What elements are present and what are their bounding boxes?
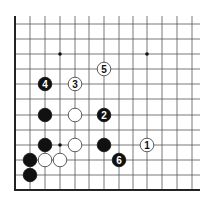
move-number-label: 6 [116,155,122,166]
stone-circle [68,108,82,122]
move-number-label: 3 [72,79,78,90]
white-stone [68,138,82,152]
stone-circle [38,108,52,122]
stones-layer: 543216 [23,62,154,182]
go-board-diagram: 543216 [0,0,214,202]
white-stone [68,108,82,122]
black-stone-move-6: 6 [112,153,126,167]
white-stone [38,153,52,167]
star-point-icon [145,52,149,56]
black-stone [38,138,52,152]
stone-circle [23,153,37,167]
stone-circle [23,168,37,182]
stone-circle [38,138,52,152]
move-number-label: 5 [101,64,107,75]
stone-circle [53,153,67,167]
white-stone-move-1: 1 [140,138,154,152]
black-stone [97,138,111,152]
black-stone [23,168,37,182]
black-stone [38,108,52,122]
black-stone-move-4: 4 [38,77,52,91]
black-stone-move-2: 2 [97,108,111,122]
move-number-label: 4 [42,79,48,90]
stone-circle [38,153,52,167]
white-stone [53,153,67,167]
stone-circle [97,138,111,152]
black-stone [23,153,37,167]
star-point-icon [58,143,62,147]
white-stone-move-5: 5 [97,62,111,76]
star-point-icon [58,52,62,56]
move-number-label: 2 [101,110,107,121]
white-stone-move-3: 3 [68,77,82,91]
stone-circle [68,138,82,152]
move-number-label: 1 [144,140,150,151]
